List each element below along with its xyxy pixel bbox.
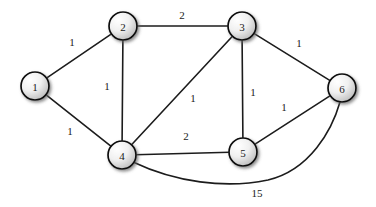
node-5[interactable]: 5	[229, 138, 257, 166]
edge-weight-4-5: 2	[183, 130, 189, 142]
edges-layer	[45, 26, 340, 184]
graph-canvas: 123456 11211112115	[0, 0, 376, 207]
node-6[interactable]: 6	[328, 74, 356, 102]
node-label-5: 5	[240, 147, 246, 159]
edge-3-5	[242, 39, 243, 139]
edge-1-4	[45, 94, 112, 147]
node-label-3: 3	[239, 21, 245, 33]
edge-weight-5-6: 1	[281, 101, 287, 113]
edge-weight-2-4: 1	[104, 80, 110, 92]
edge-weight-1-4: 1	[67, 125, 73, 137]
edge-5-6	[254, 95, 331, 145]
node-4[interactable]: 4	[108, 141, 136, 169]
node-1[interactable]: 1	[21, 72, 49, 100]
edge-weight-3-4: 1	[190, 92, 196, 104]
edge-labels-layer: 11211112115	[67, 9, 302, 199]
edge-2-4	[122, 39, 123, 142]
node-label-1: 1	[32, 81, 38, 93]
edge-1-2	[46, 33, 113, 78]
edge-weight-3-6: 1	[296, 37, 302, 49]
graph-figure: 123456 11211112115	[0, 0, 376, 207]
edge-weight-4-6: 15	[252, 187, 264, 199]
edge-weight-3-5: 1	[250, 86, 256, 98]
node-2[interactable]: 2	[109, 12, 137, 40]
edge-3-6	[253, 33, 331, 81]
edge-3-4	[131, 36, 233, 146]
node-label-6: 6	[339, 83, 345, 95]
node-label-4: 4	[119, 150, 125, 162]
edge-weight-1-2: 1	[69, 36, 75, 48]
edge-4-5	[135, 152, 230, 154]
node-label-2: 2	[120, 21, 126, 33]
edge-weight-2-3: 2	[179, 9, 185, 21]
node-3[interactable]: 3	[228, 12, 256, 40]
